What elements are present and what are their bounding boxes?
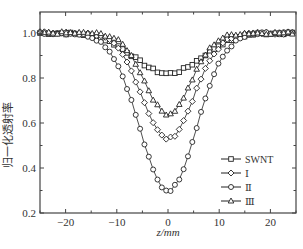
legend-label: Ⅱ [245,182,252,193]
legend-label: Ⅲ [245,196,255,207]
plot-frame [40,12,296,213]
x-axis-label: z/mm [155,226,179,238]
y-tick-label: 1.0 [22,27,36,39]
z-scan-chart: −20−10010200.20.40.60.81.0 SWNTⅠⅡⅢ 归一化透射… [0,0,303,249]
x-tick-label: −20 [57,216,75,228]
x-tick-label: −10 [108,216,126,228]
x-tick-label: 20 [265,216,277,228]
y-tick-label: 0.2 [22,207,36,219]
plot-area [37,29,295,194]
series-2 [37,29,295,142]
y-axis-label: 归一化透射率 [1,102,14,168]
x-tick-label: 10 [214,216,226,228]
legend-label: SWNT [245,154,273,165]
axes: −20−10010200.20.40.60.81.0 [22,12,296,228]
y-tick-label: 0.4 [22,162,36,174]
legend: SWNTⅠⅡⅢ [221,154,273,207]
y-tick-label: 0.8 [22,72,36,84]
y-tick-label: 0.6 [22,117,36,129]
series-1 [38,30,295,75]
legend-label: Ⅰ [245,168,249,179]
